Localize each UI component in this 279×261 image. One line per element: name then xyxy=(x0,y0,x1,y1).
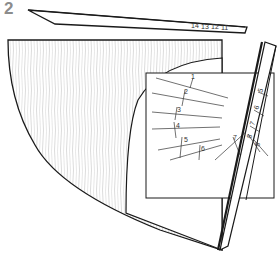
line-label: 6 xyxy=(201,145,205,152)
illustration: 14 13 12 11 xyxy=(0,0,279,261)
assembly-diagram: 2 14 13 12 11 xyxy=(0,0,279,261)
line-label: 5 xyxy=(184,136,188,143)
line-label: 1 xyxy=(191,73,195,80)
top-strip: 14 13 12 11 xyxy=(28,10,247,33)
line-label: 4 xyxy=(176,122,180,129)
strip-mark: 14 xyxy=(191,22,199,29)
line-label: 7 xyxy=(233,134,237,141)
strip-mark: 12 xyxy=(211,23,219,30)
line-label: 2 xyxy=(184,88,188,95)
strip-mark: 13 xyxy=(201,23,209,30)
strip-mark: 11 xyxy=(221,24,228,31)
line-label: 3 xyxy=(177,106,181,113)
